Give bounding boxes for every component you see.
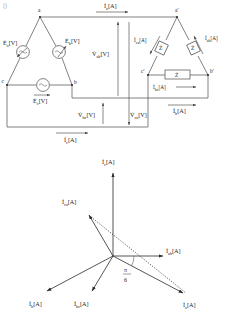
- node-label-a: a: [38, 7, 41, 13]
- phasor-label-Ib: İb[A]: [29, 300, 42, 309]
- node-label-c: c: [2, 78, 5, 84]
- source-c-emf: Ėc[V]: [33, 95, 50, 106]
- angle-denominator: 6: [124, 277, 127, 283]
- phasor-label-Ic: İc[A]: [102, 158, 115, 167]
- impedance-ca-label: Ż: [159, 45, 163, 51]
- phasor-diagram: İc[A] İca[A] İab[A] İb[A] İbc[A] İa[A]: [29, 158, 196, 310]
- phasor-angle-label: π 6: [123, 267, 131, 283]
- line-current-a-arrow: İa[A]: [96, 2, 128, 12]
- svg-text:İca[A]: İca[A]: [134, 37, 147, 45]
- phasor-vector-Ica: [89, 215, 113, 256]
- figure-root: 0 a c b Ėa[V] Ėb[: [0, 0, 243, 315]
- node-label-a2: a': [175, 7, 178, 13]
- phasor-vector-Ib: [47, 256, 113, 291]
- svg-text:V̇bc[V]: V̇bc[V]: [78, 111, 95, 120]
- svg-text:İbc[A]: İbc[A]: [153, 84, 166, 92]
- svg-text:Ėa[V]: Ėa[V]: [3, 39, 17, 48]
- figure-canvas: 0 a c b Ėa[V] Ėb[: [0, 0, 243, 315]
- voltage-bc-arrow: V̇bc[V]: [78, 103, 103, 124]
- svg-text:Ėb[V]: Ėb[V]: [65, 37, 79, 46]
- line-c-unit: [A]: [68, 136, 77, 143]
- svg-text:İb[A]: İb[A]: [173, 107, 186, 116]
- line-current-b-arrow: İb[A]: [168, 105, 196, 116]
- line-b-unit: [A]: [177, 107, 186, 114]
- voltage-bc-unit: [V]: [86, 111, 95, 118]
- voltage-ab-arrow: V̇ab[V]: [92, 22, 118, 96]
- voltage-ca-unit: [V]: [138, 111, 147, 118]
- emf-b-unit: [V]: [71, 37, 80, 44]
- line-c-connection: [7, 75, 148, 127]
- svg-text:İc[A]: İc[A]: [64, 136, 77, 145]
- phase-ab-unit: [A]: [211, 35, 218, 42]
- voltage-ab-unit: [V]: [100, 50, 109, 57]
- corner-mark: 0: [3, 2, 7, 11]
- phasor-label-Ia: İa[A]: [183, 301, 196, 310]
- phase-bc-unit: [A]: [159, 84, 166, 91]
- emf-c-unit: [V]: [39, 97, 48, 104]
- emf-a-unit: [V]: [9, 39, 18, 46]
- node-label-b2: b': [210, 68, 214, 74]
- svg-text:İa[A]: İa[A]: [104, 2, 117, 11]
- phasor-angle-arc: [132, 256, 135, 266]
- phase-ca-unit: [A]: [139, 37, 146, 44]
- phasor-label-Iab: İab[A]: [166, 247, 181, 256]
- phasor-label-Ibc: İbc[A]: [74, 300, 89, 309]
- impedance-bc-label: Ż: [175, 72, 179, 78]
- phase-current-bc-arrow: İbc[A]: [153, 84, 196, 92]
- node-label-c2: c': [141, 68, 144, 74]
- impedance-ab-label: Ż: [191, 45, 195, 51]
- phasor-label-Ica: İca[A]: [62, 198, 76, 207]
- source-delta-group: [6, 16, 73, 92]
- svg-text:V̇ca[V]: V̇ca[V]: [130, 111, 147, 120]
- line-a-unit: [A]: [108, 2, 117, 9]
- svg-text:V̇ab[V]: V̇ab[V]: [92, 50, 109, 59]
- svg-text:İab[A]: İab[A]: [205, 35, 218, 43]
- angle-numerator: π: [124, 267, 127, 273]
- line-current-c-arrow: İc[A]: [56, 133, 88, 145]
- svg-text:Ėc[V]: Ėc[V]: [33, 97, 47, 106]
- node-label-b: b: [74, 79, 77, 85]
- phasor-vector-Ia: [113, 256, 183, 293]
